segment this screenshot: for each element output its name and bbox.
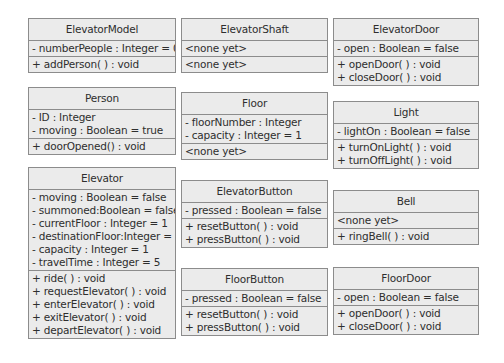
class-name: ElevatorButton [182,181,327,203]
class-elevator-door: ElevatorDoor - open : Boolean = false + … [333,18,479,86]
attribute: - summoned:Boolean = false [32,204,172,217]
operation: + requestElevator( ) : void [32,285,172,298]
class-name: FloorDoor [334,268,478,290]
attribute: - capacity : Integer = 1 [32,243,172,256]
attribute: <none yet> [185,42,324,55]
attribute: - numberPeople : Integer = 0 [32,42,172,55]
class-name: ElevatorModel [29,19,175,41]
attribute: - travelTime : Integer = 5 [32,256,172,269]
operation: + exitElevator( ) : void [32,311,172,324]
operation: + resetButton( ) : void [185,308,324,321]
operation: <none yet> [185,145,324,158]
attributes-section: - lightOn : Boolean = false [334,124,478,139]
attribute: - moving : Boolean = false [32,191,172,204]
operation: + closeDoor( ) : void [337,71,475,84]
attribute: - open : Boolean = false [337,42,475,55]
class-floor-door: FloorDoor - open : Boolean = false + ope… [333,267,479,335]
class-name: FloorButton [182,269,327,291]
attributes-section: - ID : Integer - moving : Boolean = true [29,110,175,138]
operation: + turnOnLight( ) : void [337,141,475,154]
attributes-section: - open : Boolean = false [334,290,478,305]
class-name: Bell [334,191,478,213]
attribute: - floorNumber : Integer [185,116,324,129]
operation: + ride( ) : void [32,272,172,285]
class-name: Person [29,88,175,110]
attributes-section: - moving : Boolean = false - summoned:Bo… [29,190,175,270]
operations-section: + doorOpened() : void [29,138,175,154]
operations-section: + openDoor( ) : void + closeDoor( ) : vo… [334,56,478,85]
operations-section: + ride( ) : void + requestElevator( ) : … [29,270,175,338]
operation: + pressButton( ) : void [185,233,324,246]
attributes-section: - open : Boolean = false [334,41,478,56]
class-person: Person - ID : Integer - moving : Boolean… [28,87,176,155]
operation: + ringBell( ) : void [337,230,475,243]
operations-section: + addPerson( ) : void [29,56,175,72]
class-elevator-model: ElevatorModel - numberPeople : Integer =… [28,18,176,73]
operations-section: + turnOnLight( ) : void + turnOffLight( … [334,139,478,168]
operation: + departElevator( ) : void [32,324,172,337]
operation: + resetButton( ) : void [185,220,324,233]
class-elevator: Elevator - moving : Boolean = false - su… [28,167,176,339]
class-elevator-shaft: ElevatorShaft <none yet> <none yet> [181,18,328,73]
operations-section: + resetButton( ) : void + pressButton( )… [182,306,327,335]
class-elevator-button: ElevatorButton - pressed : Boolean = fal… [181,180,328,248]
class-name: Light [334,102,478,124]
class-name: Elevator [29,168,175,190]
operation: + doorOpened() : void [32,140,172,153]
attribute: - destinationFloor:Integer = 2 [32,230,172,243]
attribute: - ID : Integer [32,111,172,124]
class-bell: Bell <none yet> + ringBell( ) : void [333,190,479,245]
class-name: ElevatorShaft [182,19,327,41]
operation: <none yet> [185,58,324,71]
attributes-section: - pressed : Boolean = false [182,291,327,306]
attributes-section: - pressed : Boolean = false [182,203,327,218]
operations-section: <none yet> [182,56,327,72]
attribute: - capacity : Integer = 1 [185,129,324,142]
class-floor: Floor - floorNumber : Integer - capacity… [181,92,328,160]
attribute: - currentFloor : Integer = 1 [32,217,172,230]
operation: + openDoor( ) : void [337,307,475,320]
attributes-section: <none yet> [182,41,327,56]
operations-section: + resetButton( ) : void + pressButton( )… [182,218,327,247]
operation: + enterElevator( ) : void [32,298,172,311]
operations-section: + ringBell( ) : void [334,228,478,244]
class-name: ElevatorDoor [334,19,478,41]
attribute: - lightOn : Boolean = false [337,125,475,138]
attribute: - pressed : Boolean = false [185,292,324,305]
attributes-section: <none yet> [334,213,478,228]
operation: + openDoor( ) : void [337,58,475,71]
operation: + turnOffLight( ) : void [337,154,475,167]
attributes-section: - numberPeople : Integer = 0 [29,41,175,56]
attribute: <none yet> [337,214,475,227]
class-name: Floor [182,93,327,115]
operations-section: + openDoor( ) : void + closeDoor( ) : vo… [334,305,478,334]
attribute: - open : Boolean = false [337,291,475,304]
class-light: Light - lightOn : Boolean = false + turn… [333,101,479,169]
attributes-section: - floorNumber : Integer - capacity : Int… [182,115,327,143]
operation: + closeDoor( ) : void [337,320,475,333]
class-floor-button: FloorButton - pressed : Boolean = false … [181,268,328,336]
attribute: - moving : Boolean = true [32,124,172,137]
attribute: - pressed : Boolean = false [185,204,324,217]
operations-section: <none yet> [182,143,327,159]
operation: + addPerson( ) : void [32,58,172,71]
operation: + pressButton( ) : void [185,321,324,334]
